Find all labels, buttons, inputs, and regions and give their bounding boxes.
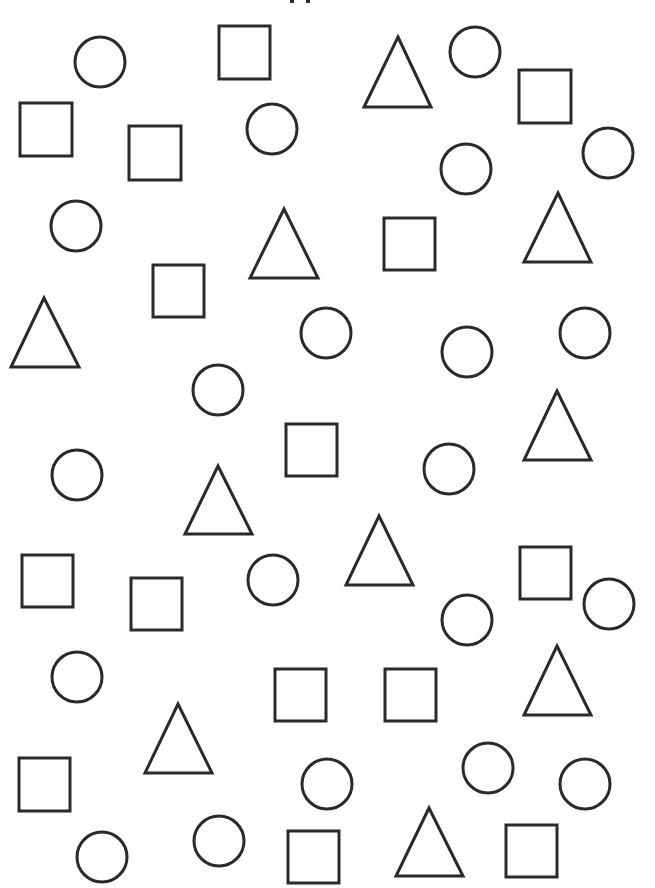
square-shape — [286, 424, 337, 476]
square-shape — [131, 578, 182, 630]
triangle-shape — [524, 646, 591, 715]
circle-shape — [248, 555, 298, 605]
circle-shape — [441, 144, 491, 194]
circle-shape — [463, 743, 513, 793]
circle-shape — [424, 444, 474, 494]
triangle-shape — [396, 808, 463, 876]
circle-shape — [52, 652, 102, 702]
square-shape — [519, 70, 571, 123]
triangle-shape — [346, 516, 413, 585]
triangle-shape — [364, 37, 431, 107]
square-shape — [384, 218, 435, 270]
circle-shape — [450, 27, 500, 77]
circle-shape — [51, 201, 101, 251]
triangle-shape — [11, 298, 79, 367]
circle-shape — [193, 365, 243, 415]
circle-shape — [442, 327, 492, 377]
circle-shape — [442, 595, 492, 645]
triangle-shape — [145, 704, 212, 773]
square-shape — [506, 825, 557, 877]
square-shape — [129, 126, 181, 180]
square-shape — [385, 669, 436, 721]
triangle-shape — [250, 209, 318, 278]
square-shape — [20, 103, 72, 156]
square-shape — [288, 831, 339, 883]
square-shape — [219, 26, 270, 79]
circle-shape — [247, 104, 297, 154]
triangle-shape — [185, 466, 252, 534]
clipped-title-fragment — [290, 0, 310, 3]
circle-shape — [302, 759, 352, 809]
square-shape — [153, 265, 204, 317]
circle-shape — [560, 759, 610, 809]
circles-group — [51, 27, 634, 882]
square-shape — [275, 669, 326, 721]
circle-shape — [584, 579, 634, 629]
circle-shape — [583, 128, 633, 178]
triangle-shape — [524, 391, 591, 460]
square-shape — [19, 758, 70, 811]
circle-shape — [301, 308, 351, 358]
triangle-shape — [524, 193, 591, 262]
shapes-worksheet — [0, 0, 655, 888]
square-shape — [22, 555, 73, 607]
circle-shape — [75, 37, 125, 87]
circle-shape — [77, 832, 127, 882]
circle-shape — [194, 816, 244, 866]
circle-shape — [560, 308, 610, 358]
circle-shape — [52, 450, 102, 500]
square-shape — [520, 547, 571, 599]
